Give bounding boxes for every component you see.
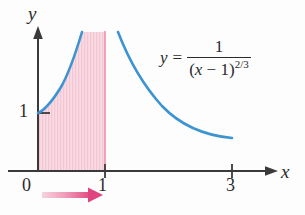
y-axis-arrowhead (33, 26, 43, 39)
tick-label-x-1: 1 (98, 176, 107, 194)
x-axis-label: x (281, 162, 289, 181)
shaded-region (38, 32, 105, 171)
denominator-one: 1 (220, 60, 229, 79)
y-axis-label: y (28, 4, 36, 23)
tick-label-x-3: 3 (226, 176, 235, 194)
equation-lhs: y (160, 48, 168, 68)
denominator-minus: − (207, 60, 217, 79)
x-axis-arrowhead (265, 166, 278, 176)
tick-label-origin: 0 (22, 176, 31, 194)
equation-numerator: 1 (209, 38, 230, 57)
equation-fraction: 1 (x − 1)2/3 (187, 38, 251, 79)
tick-label-y-1: 1 (19, 102, 28, 120)
denominator-exponent: 2/3 (235, 58, 249, 70)
equation-denominator: (x − 1)2/3 (187, 58, 251, 79)
denominator-variable: x (195, 60, 203, 79)
plot-canvas (0, 0, 305, 215)
equation-relation: = (173, 48, 183, 68)
graph-figure: y x 0 1 3 1 y = 1 (x − 1)2/3 (0, 0, 305, 215)
direction-arrow (42, 188, 103, 203)
equation-annotation: y = 1 (x − 1)2/3 (160, 38, 251, 79)
